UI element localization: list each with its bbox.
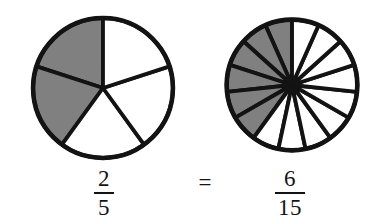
fraction-label-six-fifteenths: 6 15 <box>258 167 322 219</box>
pie-chart-six-fifteenths <box>221 14 363 156</box>
pie-right-svg <box>221 14 363 156</box>
fraction-label-two-fifths: 2 5 <box>78 167 130 219</box>
fraction-numerator: 2 <box>78 167 130 191</box>
fraction-bar <box>94 192 114 194</box>
pie-chart-two-fifths <box>27 12 179 164</box>
fraction-numerator: 6 <box>258 167 322 191</box>
pie-left-svg <box>27 12 179 164</box>
fraction-denominator: 15 <box>258 196 322 219</box>
fraction-denominator: 5 <box>78 196 130 219</box>
fraction-bar <box>275 192 305 194</box>
equals-sign: = <box>186 170 224 196</box>
equivalent-fractions-figure: 2 5 = 6 15 <box>0 0 389 221</box>
